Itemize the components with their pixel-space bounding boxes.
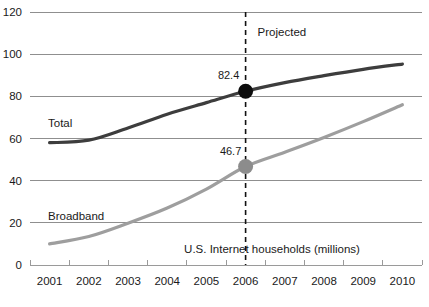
x-tick-label-2007: 2007: [272, 275, 298, 287]
x-axis: [30, 260, 422, 265]
annotation-markers-group: [238, 84, 253, 174]
y-tick-label-20: 20: [9, 217, 22, 229]
projected-region-label: Projected: [258, 26, 307, 38]
series-label-broadband: Broadband: [48, 210, 104, 222]
y-tick-label-40: 40: [9, 175, 22, 187]
x-tick-label-2010: 2010: [390, 275, 416, 287]
x-tick-label-2006: 2006: [233, 275, 259, 287]
gridlines-group: [30, 12, 422, 223]
x-tick-label-2001: 2001: [37, 275, 63, 287]
y-tick-label-0: 0: [16, 259, 22, 271]
chart-container: 020406080100120 200120022003200420052006…: [0, 0, 429, 307]
chart-caption: U.S. Internet households (millions): [184, 243, 360, 255]
data-point-marker-total: [238, 84, 253, 99]
x-tick-label-2009: 2009: [350, 275, 376, 287]
y-tick-label-60: 60: [9, 133, 22, 145]
x-tick-label-2005: 2005: [194, 275, 220, 287]
y-axis-tick-labels: 020406080100120: [3, 6, 22, 271]
data-point-marker-broadband: [238, 159, 253, 174]
series-label-total: Total: [48, 117, 72, 129]
x-tick-label-2004: 2004: [154, 275, 180, 287]
line-chart: 020406080100120 200120022003200420052006…: [0, 0, 429, 307]
y-tick-label-100: 100: [3, 48, 22, 60]
data-label-total-2006: 82.4: [218, 69, 239, 81]
x-tick-label-2002: 2002: [76, 275, 102, 287]
y-tick-label-120: 120: [3, 6, 22, 18]
x-tick-label-2008: 2008: [311, 275, 337, 287]
x-tick-label-2003: 2003: [115, 275, 141, 287]
y-tick-label-80: 80: [9, 90, 22, 102]
data-label-broadband-2006: 46.7: [220, 145, 241, 157]
x-axis-tick-labels: 2001200220032004200520062007200820092010: [37, 275, 415, 287]
